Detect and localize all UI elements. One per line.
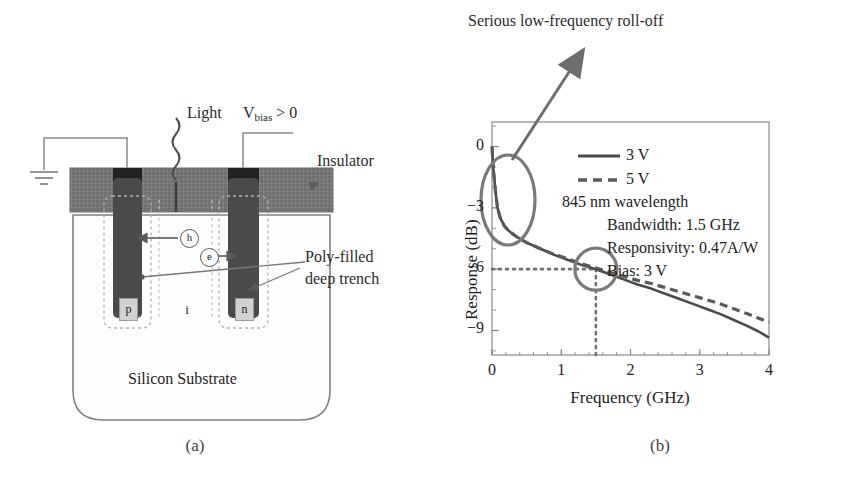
info-bias: Bias: 3 V <box>607 262 667 280</box>
silicon-substrate-body <box>73 215 330 420</box>
poly-trench-left <box>113 178 142 318</box>
electron-carrier-symbol: e <box>200 248 219 267</box>
poly-trench-label-line2: deep trench <box>305 270 379 288</box>
y-tick-1: −3 <box>458 197 484 215</box>
y-tick-3: −9 <box>458 319 484 337</box>
poly-trench-right <box>228 178 259 318</box>
x-tick-3: 3 <box>690 361 710 379</box>
info-bandwidth: Bandwidth: 1.5 GHz <box>607 216 740 234</box>
frequency-response-plot <box>440 0 867 430</box>
x-tick-0: 0 <box>482 361 502 379</box>
x-tick-1: 1 <box>551 361 571 379</box>
n-region-label: n <box>235 298 254 321</box>
y-tick-0: 0 <box>458 136 484 154</box>
bias-wire <box>243 133 293 168</box>
x-axis-title: Frequency (GHz) <box>480 388 780 408</box>
caption-a: (a) <box>175 436 215 456</box>
ground-wire <box>44 138 127 170</box>
i-region-label: i <box>180 302 194 318</box>
rolloff-annotation-text: Serious low-frequency roll-off <box>468 12 663 30</box>
x-tick-4: 4 <box>759 361 779 379</box>
vbias-symbol: V <box>243 104 255 121</box>
insulator-label: Insulator <box>317 152 374 170</box>
silicon-substrate-label: Silicon Substrate <box>128 370 237 388</box>
vbias-condition: > 0 <box>276 104 297 121</box>
panel-b-frequency-response-chart: Serious low-frequency roll-off 3 V 5 V 8… <box>440 0 867 478</box>
info-responsivity: Responsivity: 0.47A/W <box>607 239 758 257</box>
x-tick-2: 2 <box>621 361 641 379</box>
light-label: Light <box>187 104 222 122</box>
vbias-subscript: bias <box>255 111 273 123</box>
panel-a-device-diagram: Light Vbias > 0 Insulator Poly-filled de… <box>0 0 440 478</box>
trench-leader-dot-left <box>139 274 144 279</box>
legend-label-5v: 5 V <box>626 170 649 188</box>
vbias-label: Vbias > 0 <box>243 104 297 123</box>
info-wavelength: 845 nm wavelength <box>562 193 688 211</box>
y-tick-2: −6 <box>458 258 484 276</box>
ground-symbol <box>30 172 58 184</box>
legend-label-3v: 3 V <box>626 146 649 164</box>
poly-trench-label-line1: Poly-filled <box>305 248 373 266</box>
insulator-layer <box>70 168 333 212</box>
hole-carrier-symbol: h <box>180 229 199 248</box>
device-cross-section-graphic <box>0 0 440 478</box>
p-region-label: p <box>119 298 138 321</box>
rolloff-callout-arrow <box>512 52 582 160</box>
caption-b: (b) <box>640 436 680 456</box>
